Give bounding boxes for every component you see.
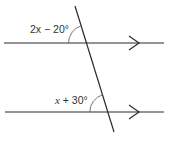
parallel-lines-diagram: 2x − 20° x + 30° (0, 0, 174, 141)
upper-angle-label: 2x − 20° (30, 23, 69, 35)
lower-angle-label: x + 30° (54, 94, 88, 106)
transversal-line (75, 6, 114, 132)
upper-angle-arc (69, 26, 82, 43)
lower-angle-arc (90, 95, 103, 112)
